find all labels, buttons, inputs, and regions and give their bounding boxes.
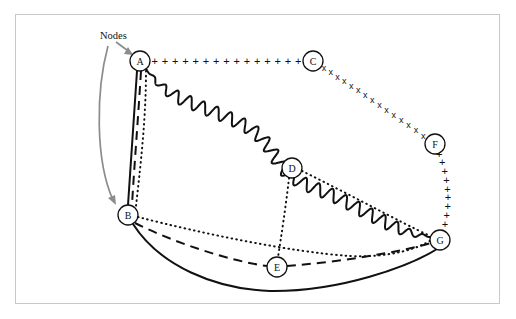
- edge-a-c-plus: +++++++++++++++: [151, 55, 301, 67]
- edge-a-b-dotted: [136, 71, 146, 206]
- edge-marker-x: x: [335, 72, 340, 82]
- edge-marker-+: +: [172, 55, 178, 67]
- edge-marker-+: +: [162, 55, 168, 67]
- edge-marker-+: +: [254, 55, 260, 67]
- pointer-arrowhead-to-b: [108, 195, 116, 205]
- node-b-label: B: [125, 210, 132, 221]
- edge-marker-+: +: [151, 55, 157, 67]
- edge-marker-x: x: [363, 90, 368, 100]
- node-a-label: A: [136, 56, 144, 67]
- edge-marker-+: +: [193, 55, 199, 67]
- node-a[interactable]: A: [130, 51, 150, 71]
- edge-f-g-plus: ++++++++++: [436, 148, 451, 239]
- edge-d-g-dotted: [302, 171, 430, 236]
- node-c[interactable]: C: [303, 51, 323, 71]
- edge-marker-x: x: [377, 100, 382, 110]
- edge-d-e-dotted: [278, 178, 289, 257]
- pointer-line-to-b: [99, 46, 113, 200]
- node-e[interactable]: E: [267, 257, 287, 277]
- edge-b-g-dotted: [138, 217, 431, 256]
- edge-marker-+: +: [275, 55, 281, 67]
- edge-marker-+: +: [234, 55, 240, 67]
- edge-b-g-solid: [133, 224, 437, 291]
- edge-marker-+: +: [182, 55, 188, 67]
- node-f[interactable]: F: [425, 134, 445, 154]
- node-c-label: C: [310, 56, 317, 67]
- edge-marker-x: x: [356, 85, 361, 95]
- edge-marker-+: +: [213, 55, 219, 67]
- edge-marker-x: x: [392, 110, 397, 120]
- edge-marker-x: x: [421, 131, 426, 141]
- edge-marker-+: +: [203, 55, 209, 67]
- node-d-label: D: [288, 163, 295, 174]
- edge-marker-x: x: [342, 76, 347, 86]
- edge-marker-x: x: [399, 115, 404, 125]
- edge-marker-x: x: [406, 120, 411, 130]
- edge-marker-x: x: [349, 81, 354, 91]
- edge-marker-+: +: [244, 55, 250, 67]
- edge-marker-+: +: [264, 55, 270, 67]
- edge-c-f-cross: xxxxxxxxxxxxxxx: [322, 63, 426, 141]
- node-e-label: E: [274, 262, 280, 273]
- edge-marker-+: +: [285, 55, 291, 67]
- edge-a-g-wavy: [146, 69, 433, 237]
- nodes-pointer-group: [99, 42, 133, 205]
- node-g[interactable]: G: [430, 230, 450, 250]
- edge-marker-x: x: [384, 105, 389, 115]
- node-d[interactable]: D: [282, 158, 302, 178]
- edge-b-e-dashed: [135, 223, 267, 266]
- graph-svg: +++++++++++++++ xxxxxxxxxxxxxxx ++++++++…: [0, 0, 516, 319]
- edge-marker-+: +: [223, 55, 229, 67]
- edge-marker-x: x: [370, 95, 375, 105]
- diagram-canvas: +++++++++++++++ xxxxxxxxxxxxxxx ++++++++…: [0, 0, 516, 319]
- edge-marker-x: x: [328, 67, 333, 77]
- nodes-annotation-label: Nodes: [100, 30, 127, 41]
- edge-marker-x: x: [414, 125, 419, 135]
- node-b[interactable]: B: [118, 205, 138, 225]
- node-f-label: F: [432, 139, 438, 150]
- edge-marker-+: +: [295, 55, 301, 67]
- node-g-label: G: [436, 235, 443, 246]
